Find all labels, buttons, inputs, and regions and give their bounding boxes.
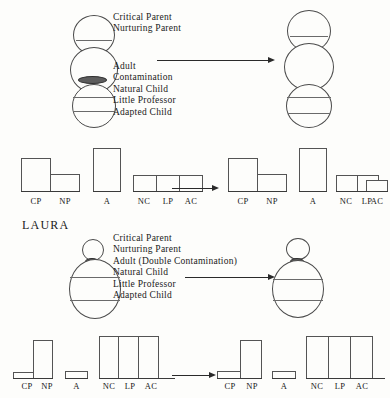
bar-ac-chart2	[366, 180, 388, 191]
bar-a-chart3	[65, 371, 88, 378]
tick-nc-chart4: NC	[305, 381, 329, 391]
ego-label-nurturing-parent-2: Nurturing Parent	[113, 244, 237, 255]
ego-label-adult-double-contamination: Adult (Double Contamination)	[113, 256, 237, 267]
ego-divider-child-lower-right-top	[288, 113, 330, 114]
bar-nc-chart1	[133, 175, 157, 191]
bar-nc-chart3	[99, 336, 119, 378]
chart-arrow-head-bottom	[209, 372, 216, 378]
bar-nc-chart4	[306, 336, 329, 378]
bar-cp-chart2	[228, 158, 258, 191]
tick-lp-chart4: LP	[328, 381, 352, 391]
bar-np-chart4	[240, 340, 262, 378]
baseline-group3-chart2	[336, 191, 388, 192]
baseline-group1-chart2	[228, 191, 287, 192]
ego-label-natural-child: Natural Child	[113, 84, 176, 95]
tick-nc-chart3: NC	[98, 381, 120, 391]
baseline-group2-chart3	[65, 378, 88, 379]
tick-cp-chart2: CP	[228, 196, 258, 206]
ego-divider-parent-left-top	[76, 40, 112, 41]
baseline-group3-chart1	[133, 191, 203, 192]
tick-ac-chart2: AC	[365, 196, 389, 206]
chart-arrow-line-bottom	[172, 375, 211, 376]
baseline-group2-chart4	[272, 378, 296, 379]
ego-label-adapted-child-2: Adapted Child	[113, 290, 237, 301]
tick-a-chart4: A	[272, 381, 296, 391]
ego-circle-body-right-bottom	[272, 260, 324, 318]
chart-arrow-head-top	[212, 185, 219, 191]
ego-label-little-professor: Little Professor	[113, 95, 176, 106]
bar-ac-chart3	[138, 336, 159, 378]
ego-label-adapted-child: Adapted Child	[113, 107, 176, 118]
baseline-group2-chart2	[299, 191, 327, 192]
tick-nc-chart1: NC	[132, 196, 156, 206]
baseline-group3-chart4	[306, 378, 385, 379]
tick-ac-chart1: AC	[179, 196, 203, 206]
ego-labels-top-2: Adult Contamination Natural Child Little…	[113, 61, 176, 118]
ego-label-critical-parent-2: Critical Parent	[113, 233, 237, 244]
tick-np-chart3: NP	[33, 381, 61, 391]
tick-lp-chart1: LP	[156, 196, 180, 206]
ego-label-nurturing-parent: Nurturing Parent	[113, 23, 181, 34]
ego-divider-child-lower-left-top	[74, 111, 114, 112]
ego-label-little-professor-2: Little Professor	[113, 279, 237, 290]
tick-np-chart4: NP	[238, 381, 266, 391]
transform-arrow-line-bottom	[185, 277, 270, 278]
baseline-group1-chart3	[13, 378, 53, 379]
bar-lp-chart3	[118, 336, 139, 378]
tick-ac-chart4: AC	[350, 381, 374, 391]
baseline-group3-chart3	[99, 378, 175, 379]
baseline-group1-chart4	[217, 378, 262, 379]
baseline-group2-chart1	[93, 191, 121, 192]
figure-canvas: Critical Parent Nurturing Parent Adult C…	[0, 0, 390, 398]
ego-label-contamination: Contamination	[113, 72, 176, 83]
baseline-group1-chart1	[21, 191, 80, 192]
tick-np-chart1: NP	[50, 196, 80, 206]
bar-np-chart1	[50, 174, 80, 191]
bar-cp-chart1	[21, 158, 51, 191]
tick-a-chart1: A	[93, 196, 121, 206]
ego-divider-child-upper-right-top	[287, 97, 331, 98]
ego-divider-body-lower-right-bottom	[273, 300, 323, 301]
ego-label-adult: Adult	[113, 61, 176, 72]
tick-a-chart2: A	[299, 196, 327, 206]
ego-circle-child-left-top	[72, 84, 116, 128]
tick-lp-chart3: LP	[119, 381, 141, 391]
bar-lp-chart4	[328, 336, 351, 378]
person-name-laura: LAURA	[22, 218, 69, 233]
bar-ac-chart4	[350, 336, 373, 378]
transform-arrow-head-top	[268, 57, 275, 63]
ego-divider-body-upper-right-bottom	[273, 279, 323, 280]
ego-divider-child-upper-left-top	[73, 97, 115, 98]
bar-np-chart3	[33, 340, 53, 378]
ego-label-critical-parent: Critical Parent	[113, 12, 181, 23]
tick-ac-chart3: AC	[140, 381, 162, 391]
ego-divider-parent-right-top	[290, 36, 328, 37]
bar-a-chart1	[93, 148, 121, 191]
ego-labels-top: Critical Parent Nurturing Parent	[113, 12, 181, 35]
ego-circle-parent-right-bottom	[286, 238, 310, 260]
transform-arrow-line-top	[157, 60, 270, 61]
tick-cp-chart1: CP	[21, 196, 51, 206]
bar-a-chart4	[272, 371, 296, 378]
ego-labels-bottom: Critical Parent Nurturing Parent Adult (…	[113, 233, 237, 301]
bar-np-chart2	[257, 174, 287, 191]
contamination-blob-top	[78, 76, 107, 84]
chart-arrow-line-top	[172, 188, 214, 189]
tick-a-chart3: A	[65, 381, 88, 391]
bar-nc-chart2	[336, 175, 358, 191]
tick-np-chart2: NP	[257, 196, 287, 206]
bar-a-chart2	[299, 148, 327, 191]
ego-circle-child-right-top	[286, 84, 332, 128]
